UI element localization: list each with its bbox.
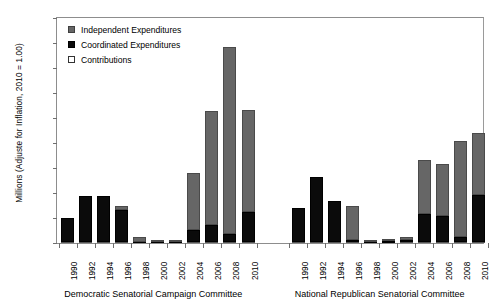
bar-segment-coordinated — [115, 210, 128, 243]
bar-segment-coordinated — [61, 218, 74, 242]
bar[interactable] — [472, 133, 485, 244]
bar[interactable] — [205, 111, 218, 244]
bar-segment-coordinated — [292, 208, 305, 243]
bar[interactable] — [151, 241, 164, 243]
bar[interactable] — [61, 218, 74, 243]
bar[interactable] — [382, 240, 395, 243]
legend-swatch-coordinated-icon — [68, 41, 75, 48]
bar-segment-coordinated — [418, 214, 431, 242]
bar-segment-coordinated — [436, 216, 449, 242]
bar-segment-independent — [454, 141, 467, 238]
legend-swatch-independent-icon — [68, 26, 75, 33]
bar-segment-independent — [346, 206, 359, 240]
bar[interactable] — [115, 206, 128, 243]
x-axis-tick — [325, 243, 326, 248]
bar[interactable] — [418, 160, 431, 243]
bar[interactable] — [223, 47, 236, 244]
bar[interactable] — [242, 110, 255, 243]
x-axis-label: 1992 — [88, 262, 97, 280]
x-axis-tick — [131, 243, 132, 248]
x-axis-label: 1994 — [337, 262, 346, 280]
x-axis-tick — [307, 243, 308, 248]
bar-segment-independent — [364, 240, 377, 242]
x-axis-tick — [361, 243, 362, 248]
legend-label-contributions: Contributions — [81, 55, 132, 65]
bar[interactable] — [454, 141, 467, 244]
x-axis-label: 2006 — [214, 262, 223, 280]
bar[interactable] — [187, 173, 200, 243]
bar[interactable] — [400, 237, 413, 243]
x-axis-label: 2000 — [160, 262, 169, 280]
x-axis-label: 1996 — [124, 262, 133, 280]
bar-segment-independent — [242, 110, 255, 211]
bar[interactable] — [328, 201, 341, 244]
legend-label-independent: Independent Expenditures — [81, 25, 181, 35]
x-axis-label: 2008 — [232, 262, 241, 280]
bar[interactable] — [133, 237, 146, 243]
bar[interactable] — [292, 208, 305, 244]
bar-segment-independent — [187, 173, 200, 230]
legend-item-coordinated: Coordinated Expenditures — [68, 37, 181, 52]
x-axis-tick — [343, 243, 344, 248]
bar-segment-independent — [151, 240, 164, 242]
bar-segment-coordinated — [79, 196, 92, 242]
x-axis-tick — [113, 243, 114, 248]
x-axis-label: 1994 — [106, 262, 115, 280]
x-axis-tick — [397, 243, 398, 248]
bar-segment-coordinated — [310, 177, 323, 242]
bar-segment-independent — [223, 47, 236, 235]
legend-item-independent: Independent Expenditures — [68, 22, 181, 37]
x-axis-tick — [221, 243, 222, 248]
bar[interactable] — [346, 206, 359, 244]
x-axis-labels: 1990199219941996199820002002200420062008… — [56, 250, 484, 286]
group-caption: National Republican Senatorial Committee — [0, 289, 491, 299]
x-axis-tick — [488, 243, 489, 248]
x-axis-tick — [149, 243, 150, 248]
x-axis-tick — [77, 243, 78, 248]
x-axis-label: 2002 — [178, 262, 187, 280]
x-axis-label: 1990 — [70, 262, 79, 280]
bar-segment-independent — [205, 111, 218, 225]
bar-segment-coordinated — [223, 234, 236, 242]
x-axis-tick — [289, 243, 290, 248]
bar-segment-independent — [400, 237, 413, 239]
x-axis-tick — [452, 243, 453, 248]
bar[interactable] — [79, 196, 92, 244]
bar[interactable] — [97, 196, 110, 244]
bar-segment-coordinated — [472, 195, 485, 242]
bar[interactable] — [169, 240, 182, 243]
x-axis-label: 2004 — [427, 262, 436, 280]
bar-segment-independent — [418, 160, 431, 214]
x-axis-tick — [59, 243, 60, 248]
chart-container: Millions (Adjuste for Inflation, 2010 = … — [0, 0, 491, 308]
bar[interactable] — [310, 177, 323, 243]
chart-legend: Independent Expenditures Coordinated Exp… — [68, 22, 181, 67]
bar-segment-coordinated — [400, 240, 413, 243]
x-axis-label: 1998 — [142, 262, 151, 280]
x-axis-label: 1992 — [319, 262, 328, 280]
bar-segment-independent — [472, 133, 485, 196]
x-axis-tick — [415, 243, 416, 248]
bar-segment-independent — [133, 237, 146, 242]
bar[interactable] — [364, 241, 377, 243]
bar-segment-coordinated — [97, 196, 110, 242]
x-axis-tick — [95, 243, 96, 248]
x-axis-tick — [203, 243, 204, 248]
bar-segment-coordinated — [454, 237, 467, 242]
x-axis-tick — [470, 243, 471, 248]
bar-segment-coordinated — [328, 201, 341, 242]
bar[interactable] — [436, 164, 449, 243]
bar-segment-coordinated — [346, 240, 359, 243]
bar-segment-coordinated — [242, 212, 255, 243]
legend-item-contributions: Contributions — [68, 52, 181, 67]
legend-swatch-contributions-icon — [68, 56, 75, 63]
y-axis-title: Millions (Adjuste for Inflation, 2010 = … — [14, 8, 24, 238]
bar-segment-coordinated — [205, 225, 218, 243]
x-axis-label: 2002 — [409, 262, 418, 280]
x-axis-tick — [239, 243, 240, 248]
x-axis-label: 2004 — [196, 262, 205, 280]
x-axis-label: 2008 — [463, 262, 472, 280]
x-axis-tick — [185, 243, 186, 248]
bar-segment-independent — [115, 206, 128, 210]
bar-segment-coordinated — [187, 230, 200, 243]
